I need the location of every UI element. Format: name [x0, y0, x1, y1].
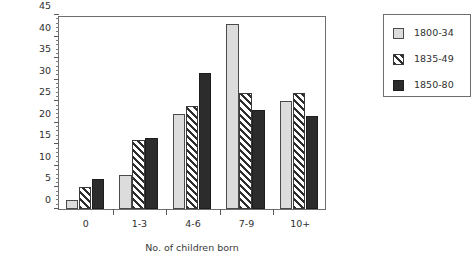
legend-item[interactable]: 1800-34: [393, 27, 454, 39]
y-axis-minor-tick: [56, 161, 59, 162]
y-axis-minor-tick: [56, 152, 59, 153]
y-axis-minor-tick: [56, 53, 59, 54]
y-axis-minor-tick: [56, 182, 59, 183]
legend-item[interactable]: 1835-49: [393, 53, 454, 65]
y-axis-tick: [54, 208, 59, 209]
legend-item-label: 1835-49: [414, 54, 454, 64]
y-axis-minor-tick: [56, 23, 59, 24]
legend-swatch-icon: [393, 54, 404, 65]
y-axis-tick: [54, 165, 59, 166]
x-axis-title: No. of children born: [58, 242, 326, 253]
y-axis-tick-label: 35: [39, 44, 51, 54]
y-axis-minor-tick: [56, 113, 59, 114]
y-axis-minor-tick: [56, 27, 59, 28]
legend-swatch-icon: [393, 28, 404, 39]
y-axis-minor-tick: [56, 117, 59, 118]
x-axis-tick: [166, 209, 167, 215]
y-axis-minor-tick: [56, 130, 59, 131]
legend-item[interactable]: 1850-80: [393, 79, 454, 91]
y-axis-tick: [54, 186, 59, 187]
y-axis-minor-tick: [56, 139, 59, 140]
bar: [145, 138, 158, 209]
y-axis-minor-tick: [56, 44, 59, 45]
bar: [252, 110, 265, 209]
bar: [199, 73, 212, 209]
bar: [186, 106, 199, 209]
y-axis-tick-label: 10: [39, 152, 51, 162]
bar: [66, 200, 79, 209]
y-axis-minor-tick: [56, 174, 59, 175]
y-axis-minor-tick: [56, 126, 59, 127]
y-axis-tick-label: 30: [39, 66, 51, 76]
y-axis-tick: [54, 122, 59, 123]
x-axis-tick-label: 7-9: [239, 219, 255, 229]
y-axis-tick-label: 15: [39, 131, 51, 141]
bar: [239, 93, 252, 209]
bar: [293, 93, 306, 209]
y-axis-minor-tick: [56, 87, 59, 88]
y-axis-minor-tick: [56, 191, 59, 192]
bar: [119, 175, 132, 209]
x-axis-tick: [220, 209, 221, 215]
chart-legend: 1800-341835-491850-80: [383, 14, 471, 97]
y-axis-minor-tick: [56, 178, 59, 179]
x-axis-tick-label: 4-6: [185, 219, 201, 229]
y-axis-minor-tick: [56, 135, 59, 136]
y-axis-minor-tick: [56, 195, 59, 196]
y-axis-minor-tick: [56, 18, 59, 19]
x-axis-tick-label: 10+: [290, 219, 310, 229]
x-axis-tick-label: 1-3: [132, 219, 148, 229]
bar: [173, 114, 186, 209]
y-axis-minor-tick: [56, 109, 59, 110]
bar: [280, 101, 293, 209]
y-axis-minor-tick: [56, 96, 59, 97]
y-axis-tick-label: 0: [45, 195, 51, 205]
plot-area: 051015202530354045 01-34-67-910+: [58, 16, 326, 210]
y-axis-tick: [54, 100, 59, 101]
y-axis-tick-label: 20: [39, 109, 51, 119]
bar-chart-figure: Percentage of families 05101520253035404…: [0, 0, 474, 266]
y-axis-minor-tick: [56, 169, 59, 170]
y-axis-tick: [54, 143, 59, 144]
legend-item-label: 1800-34: [414, 28, 454, 38]
bar: [306, 116, 319, 209]
y-axis-tick-label: 40: [39, 23, 51, 33]
bar: [132, 140, 145, 209]
legend-swatch-icon: [393, 80, 404, 91]
y-axis-minor-tick: [56, 49, 59, 50]
bar: [226, 24, 239, 209]
y-axis-minor-tick: [56, 92, 59, 93]
y-axis-minor-tick: [56, 148, 59, 149]
y-axis-minor-tick: [56, 156, 59, 157]
y-axis-minor-tick: [56, 70, 59, 71]
y-axis-tick: [54, 14, 59, 15]
y-axis-minor-tick: [56, 40, 59, 41]
y-axis-tick: [54, 79, 59, 80]
y-axis-minor-tick: [56, 74, 59, 75]
y-axis-tick-label: 25: [39, 87, 51, 97]
x-axis-tick-label: 0: [83, 219, 89, 229]
y-axis-minor-tick: [56, 105, 59, 106]
y-axis-minor-tick: [56, 31, 59, 32]
y-axis-minor-tick: [56, 61, 59, 62]
y-axis-minor-tick: [56, 83, 59, 84]
y-axis-tick-label: 5: [45, 174, 51, 184]
x-axis-tick: [273, 209, 274, 215]
x-axis-tick: [113, 209, 114, 215]
y-axis-tick: [54, 57, 59, 58]
bar: [92, 179, 105, 209]
y-axis-tick: [54, 36, 59, 37]
y-axis-minor-tick: [56, 204, 59, 205]
y-axis-minor-tick: [56, 66, 59, 67]
legend-item-label: 1850-80: [414, 80, 454, 90]
y-axis-minor-tick: [56, 199, 59, 200]
bar: [79, 187, 92, 209]
y-axis-tick-label: 45: [39, 1, 51, 11]
